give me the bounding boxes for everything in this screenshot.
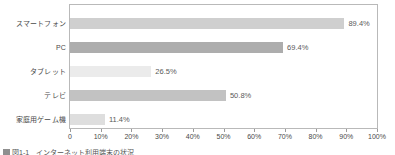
x-tick-label: 20% <box>124 133 138 140</box>
x-tick-label: 100% <box>368 133 386 140</box>
x-tick-mark <box>346 129 347 132</box>
caption-text: 図1-1 インターネット利用端末の状況 <box>12 149 134 155</box>
bar-track: 89.4% <box>70 12 377 36</box>
bar-row: スマートフォン89.4% <box>0 12 395 36</box>
bar-value-label: 89.4% <box>348 18 369 29</box>
bar-row: タブレット26.5% <box>0 60 395 84</box>
bar-track: 50.8% <box>70 84 377 108</box>
x-tick-label: 60% <box>247 133 261 140</box>
x-tick-mark <box>131 129 132 132</box>
category-label: 家庭用ゲーム機 <box>0 108 66 132</box>
bar-value-label: 11.4% <box>109 114 130 125</box>
bar-value-label: 50.8% <box>230 90 251 101</box>
x-tick-label: 70% <box>278 133 292 140</box>
x-tick-label: 10% <box>94 133 108 140</box>
bar <box>70 114 105 125</box>
x-tick-mark <box>377 129 378 132</box>
bar-value-label: 69.4% <box>287 42 308 53</box>
bar <box>70 66 151 77</box>
x-tick-label: 0 <box>68 133 72 140</box>
x-tick-label: 50% <box>216 133 230 140</box>
x-tick-mark <box>162 129 163 132</box>
bar-row: テレビ50.8% <box>0 84 395 108</box>
x-tick-label: 90% <box>339 133 353 140</box>
bar <box>70 90 226 101</box>
x-tick-mark <box>316 129 317 132</box>
category-label: PC <box>0 36 66 60</box>
x-tick-mark <box>254 129 255 132</box>
bar-chart-figure: スマートフォン89.4%PC69.4%タブレット26.5%テレビ50.8%家庭用… <box>0 0 395 155</box>
x-tick-label: 40% <box>186 133 200 140</box>
x-tick-mark <box>285 129 286 132</box>
x-tick-mark <box>193 129 194 132</box>
category-label: テレビ <box>0 84 66 108</box>
bar-value-label: 26.5% <box>155 66 176 77</box>
x-tick-label: 80% <box>309 133 323 140</box>
bar-row: PC69.4% <box>0 36 395 60</box>
category-label: タブレット <box>0 60 66 84</box>
bar <box>70 42 283 53</box>
bar-track: 26.5% <box>70 60 377 84</box>
x-tick-mark <box>224 129 225 132</box>
x-tick-mark <box>101 129 102 132</box>
caption-swatch-icon <box>3 149 10 155</box>
bar <box>70 18 344 29</box>
x-tick-label: 30% <box>155 133 169 140</box>
x-tick-mark <box>70 129 71 132</box>
x-axis: 010%20%30%40%50%60%70%80%90%100% <box>69 129 378 145</box>
bar-track: 69.4% <box>70 36 377 60</box>
figure-caption: 図1-1 インターネット利用端末の状況 <box>3 147 395 155</box>
category-label: スマートフォン <box>0 12 66 36</box>
